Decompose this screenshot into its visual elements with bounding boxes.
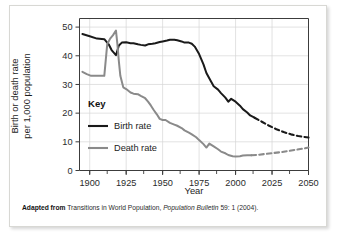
- figure-caption: Adapted from Transitions in World Popula…: [22, 204, 312, 212]
- legend-label-birth-rate: Birth rate: [114, 121, 151, 131]
- caption-body: Transitions in World Population,: [67, 204, 161, 211]
- y-axis-tick-labels: 01020304050: [62, 22, 72, 175]
- series-line-death-rate: [82, 31, 251, 157]
- chart-legend: Key Birth rate Death rate: [88, 98, 157, 153]
- x-tick-label: 2050: [298, 178, 318, 188]
- x-tick-label: 2000: [225, 178, 245, 188]
- data-series-lines: [82, 31, 308, 157]
- svg-text:Year: Year: [185, 185, 204, 196]
- caption-prefix: Adapted from: [22, 204, 65, 211]
- y-tick-label: 30: [62, 80, 72, 90]
- y-tick-label: 50: [62, 22, 72, 32]
- caption-italic-title: Population Bulletin: [163, 204, 218, 211]
- svg-text:per 1,000 population: per 1,000 population: [21, 53, 32, 139]
- y-tick-label: 10: [62, 137, 72, 147]
- svg-text:Key: Key: [88, 98, 106, 109]
- y-axis-title: Birth or death rate per 1,000 population: [9, 53, 32, 139]
- figure-container: 01020304050 1900192519501975200020252050…: [0, 0, 338, 239]
- svg-text:Birth or death rate: Birth or death rate: [9, 58, 20, 133]
- x-tick-label: 1900: [79, 178, 99, 188]
- y-tick-label: 20: [62, 108, 72, 118]
- legend-label-death-rate: Death rate: [114, 143, 157, 153]
- x-tick-label: 1925: [116, 178, 136, 188]
- series-line-death-rate-projected: [252, 148, 309, 156]
- series-line-birth-rate-projected: [255, 118, 309, 138]
- caption-suffix: 59: 1 (2004).: [220, 204, 258, 211]
- x-axis-title: Year: [185, 185, 204, 196]
- y-tick-label: 40: [62, 51, 72, 61]
- y-tick-label: 0: [67, 166, 72, 176]
- x-tick-label: 2025: [262, 178, 282, 188]
- series-line-birth-rate: [82, 34, 254, 118]
- x-tick-label: 1950: [152, 178, 172, 188]
